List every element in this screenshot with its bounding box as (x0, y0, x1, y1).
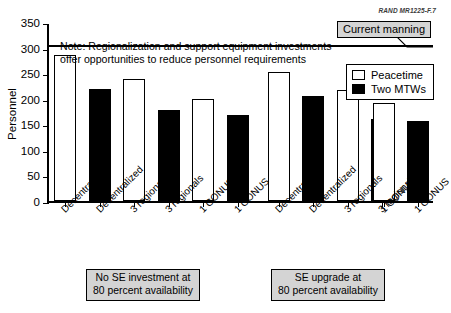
y-axis-tick-label: 250 (21, 69, 40, 81)
y-axis-tick (43, 152, 49, 153)
chart-note-line-2: offer opportunities to reduce personnel … (60, 53, 331, 66)
legend-item-two-mtws: Two MTWs (352, 82, 426, 96)
y-axis-tick-label: 0 (34, 197, 40, 209)
caption-left-line-2: 80 percent availability (93, 285, 193, 298)
current-manning-label: Current manning (343, 23, 425, 35)
legend-swatch-two-mtws-icon (352, 84, 365, 94)
current-manning-callout: Current manning (337, 21, 431, 38)
y-axis-tick (43, 24, 49, 25)
legend-label-two-mtws: Two MTWs (371, 83, 426, 95)
y-axis-title-text: Personnel (6, 88, 18, 140)
caption-no-se-investment: No SE investment at 80 percent availabil… (86, 269, 200, 301)
y-axis-tick (43, 50, 49, 51)
chart-note: Note: Regionalization and support equipm… (60, 40, 331, 66)
y-axis-tick (43, 75, 49, 76)
caption-right-line-2: 80 percent availability (278, 285, 378, 298)
y-axis-title: Personnel (4, 24, 20, 203)
caption-right-line-1: SE upgrade at (278, 272, 378, 285)
y-axis-tick-label: 200 (21, 95, 40, 107)
y-axis-tick (43, 177, 49, 178)
y-axis-tick (43, 203, 49, 204)
caption-se-upgrade: SE upgrade at 80 percent availability (271, 269, 385, 301)
bar-peacetime-6 (268, 72, 290, 201)
chart-legend: Peacetime Two MTWs (346, 64, 434, 100)
source-id-label: RAND MR1225-F.7 (379, 7, 437, 14)
chart-note-line-1: Note: Regionalization and support equipm… (60, 40, 331, 53)
y-axis-tick (43, 126, 49, 127)
y-axis-tick-label: 100 (21, 146, 40, 158)
bar-peacetime-0 (54, 55, 76, 201)
y-axis-tick-label: 350 (21, 18, 40, 30)
legend-label-peacetime: Peacetime (371, 69, 423, 81)
y-axis-tick-label: 150 (21, 121, 40, 133)
y-axis-tick-label: 50 (27, 172, 40, 184)
legend-swatch-peacetime-icon (352, 70, 365, 80)
y-axis-tick-label: 300 (21, 44, 40, 56)
legend-item-peacetime: Peacetime (352, 68, 426, 82)
y-axis-tick (43, 101, 49, 102)
caption-left-line-1: No SE investment at (93, 272, 193, 285)
